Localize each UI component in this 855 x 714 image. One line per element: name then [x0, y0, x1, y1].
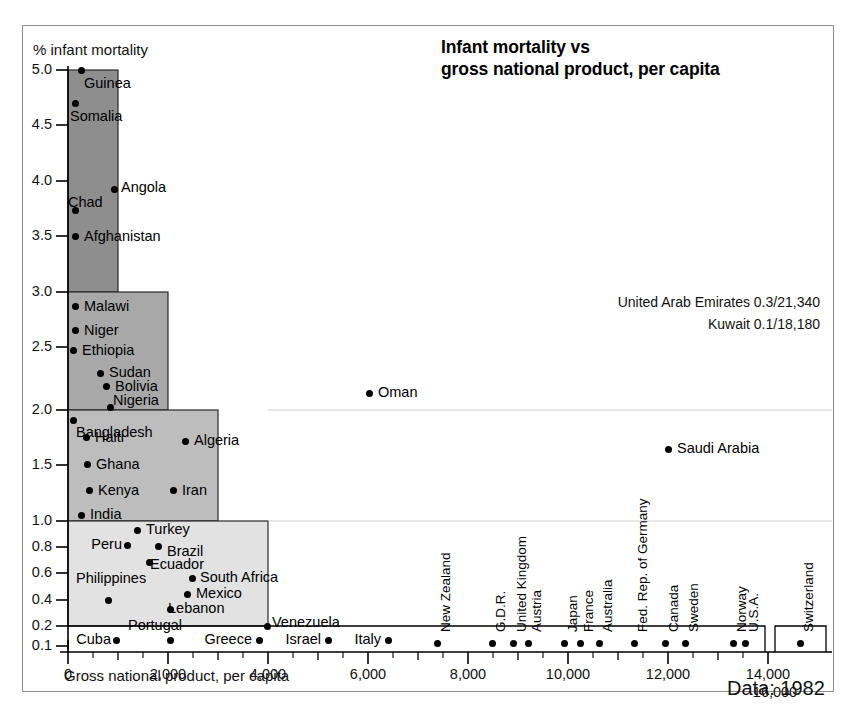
y-tick-0.6: 0.6 [0, 564, 52, 580]
point-kenya[interactable] [86, 487, 93, 494]
chart-title-line1: Infant mortality vs [441, 36, 590, 58]
point-turkey[interactable] [134, 527, 141, 534]
note-kuwait: Kuwait 0.1/18,180 [500, 314, 820, 334]
y-tick-4.0: 4.0 [0, 172, 52, 188]
label-ecuador: Ecuador [150, 556, 204, 572]
y-tick-0.4: 0.4 [0, 591, 52, 607]
label-guinea: Guinea [84, 75, 131, 91]
point-somalia[interactable] [72, 100, 79, 107]
y-tick-2.0: 2.0 [0, 401, 52, 417]
label-israel: Israel [265, 631, 321, 647]
label-cuba: Cuba [58, 631, 111, 647]
point-norway[interactable] [730, 640, 737, 647]
point-afghanistan[interactable] [72, 233, 79, 240]
point-bolivia[interactable] [103, 383, 110, 390]
point-cuba[interactable] [113, 637, 120, 644]
label-usa: U.S.A. [746, 593, 761, 632]
y-tick-5.0: 5.0 [0, 61, 52, 77]
point-france[interactable] [577, 640, 584, 647]
label-afghanistan: Afghanistan [84, 228, 161, 244]
label-saudi-arabia: Saudi Arabia [677, 440, 759, 456]
point-greece[interactable] [256, 637, 263, 644]
label-haiti: Haiti [95, 429, 124, 445]
x-tick-0: 0 [38, 666, 98, 682]
label-portugal: Portugal [128, 617, 182, 633]
x-tick-4000: 4,000 [228, 666, 308, 682]
point-sudan[interactable] [97, 370, 104, 377]
point-algeria[interactable] [182, 438, 189, 445]
x-tick-10000: 10,000 [523, 666, 613, 682]
point-niger[interactable] [72, 327, 79, 334]
label-iran: Iran [182, 482, 207, 498]
x-tick-8000: 8,000 [428, 666, 508, 682]
point-peru[interactable] [124, 542, 131, 549]
y-tick-4.5: 4.5 [0, 116, 52, 132]
x-axis [60, 640, 832, 664]
label-philippines: Philippines [76, 570, 146, 586]
point-japan[interactable] [561, 640, 568, 647]
point-fed-rep-germany[interactable] [631, 640, 638, 647]
point-india[interactable] [78, 512, 85, 519]
point-saudi-arabia[interactable] [665, 446, 672, 453]
point-oman[interactable] [366, 390, 373, 397]
label-turkey: Turkey [146, 521, 190, 537]
point-bangladesh[interactable] [70, 417, 77, 424]
point-austria[interactable] [525, 640, 532, 647]
label-australia: Australia [600, 579, 615, 632]
point-venezuela[interactable] [264, 623, 271, 630]
y-axis [56, 66, 68, 650]
point-brazil[interactable] [155, 543, 162, 550]
label-fed-rep-germany: Fed. Rep. of Germany [635, 498, 650, 632]
y-tick-3.5: 3.5 [0, 227, 52, 243]
label-algeria: Algeria [194, 432, 239, 448]
y-tick-1.5: 1.5 [0, 456, 52, 472]
chart-page: Infant mortality vs gross national produ… [0, 0, 855, 714]
point-iran[interactable] [170, 487, 177, 494]
label-niger: Niger [84, 322, 119, 338]
point-guinea[interactable] [78, 67, 85, 74]
point-usa[interactable] [742, 640, 749, 647]
point-israel[interactable] [325, 637, 332, 644]
reference-gridlines [268, 410, 832, 521]
label-sweden: Sweden [686, 583, 701, 632]
y-axis-label: % infant mortality [33, 41, 148, 58]
point-sweden[interactable] [682, 640, 689, 647]
label-venezuela: Venezuela [272, 614, 340, 630]
point-mexico[interactable] [184, 591, 191, 598]
label-india: India [90, 506, 121, 522]
label-chad: Chad [68, 194, 103, 210]
point-malawi[interactable] [72, 303, 79, 310]
point-philippines[interactable] [105, 597, 112, 604]
label-new-zealand: New Zealand [438, 552, 453, 632]
label-oman: Oman [378, 384, 418, 400]
point-south-africa[interactable] [189, 575, 196, 582]
point-united-kingdom[interactable] [510, 640, 517, 647]
label-canada: Canada [666, 585, 681, 632]
label-lebanon: Lebanon [168, 600, 224, 616]
label-malawi: Malawi [84, 298, 129, 314]
point-australia[interactable] [596, 640, 603, 647]
point-angola[interactable] [111, 186, 118, 193]
point-ghana[interactable] [84, 461, 91, 468]
point-italy[interactable] [385, 637, 392, 644]
data-year-tag: Data: 1982 [727, 677, 825, 700]
label-austria: Austria [529, 590, 544, 632]
y-tick-3.0: 3.0 [0, 283, 52, 299]
x-tick-2000: 2,000 [128, 666, 208, 682]
point-switzerland[interactable] [797, 640, 804, 647]
label-ethiopia: Ethiopia [82, 342, 134, 358]
point-gdr[interactable] [489, 640, 496, 647]
label-south-africa: South Africa [200, 569, 278, 585]
label-gdr: G.D.R. [493, 591, 508, 632]
label-peru: Peru [56, 536, 122, 552]
point-canada[interactable] [662, 640, 669, 647]
label-ghana: Ghana [96, 456, 140, 472]
point-new-zealand[interactable] [434, 640, 441, 647]
point-ethiopia[interactable] [70, 347, 77, 354]
point-portugal[interactable] [167, 637, 174, 644]
label-united-kingdom: United Kingdom [514, 536, 529, 632]
x-tick-12000: 12,000 [623, 666, 713, 682]
y-tick-0.8: 0.8 [0, 538, 52, 554]
label-japan: Japan [565, 595, 580, 632]
y-tick-0.2: 0.2 [0, 617, 52, 633]
